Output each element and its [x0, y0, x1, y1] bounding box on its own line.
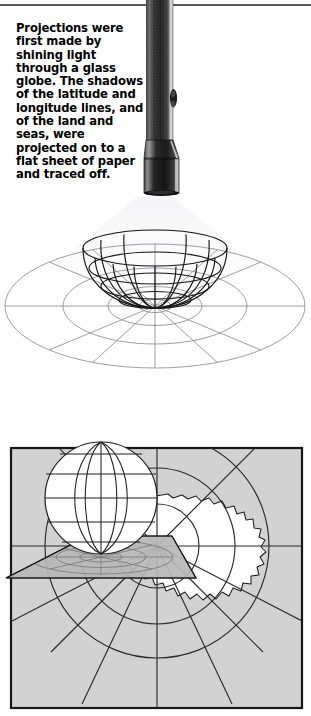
wireframe-globe — [45, 442, 157, 554]
hemisphere-shadow-svg — [0, 196, 311, 381]
figure-polar-projection-map — [0, 436, 311, 716]
figure-hemisphere-projection — [0, 196, 311, 381]
flashlight-illustration — [143, 0, 187, 196]
polar-map-svg — [0, 436, 311, 716]
flashlight-bezel — [144, 159, 179, 196]
flashlight-barrel — [146, 0, 174, 140]
caption-text: Projections were first made by shining l… — [16, 22, 148, 182]
flashlight-neck — [144, 140, 179, 160]
flashlight-svg — [143, 0, 187, 196]
